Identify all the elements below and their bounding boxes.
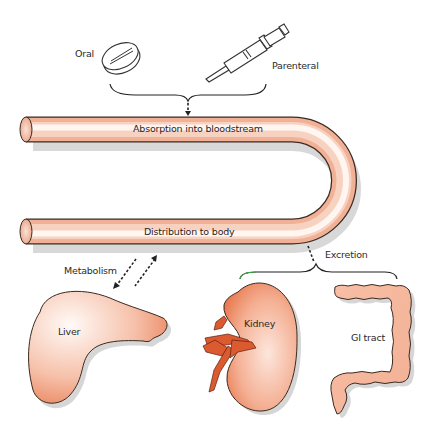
- absorption-label: Absorption into bloodstream: [133, 123, 263, 134]
- excretion-label: Excretion: [325, 249, 368, 260]
- arrow-down-icon: [185, 111, 191, 116]
- routes-brace: [110, 84, 266, 101]
- liver-label: Liver: [58, 326, 80, 337]
- syringe-icon: [206, 24, 289, 82]
- kidney-illustration: [203, 283, 301, 415]
- gi-tract-illustration: [331, 285, 415, 419]
- excretion-brace: [240, 264, 397, 279]
- parenteral-label: Parenteral: [272, 60, 319, 71]
- metabolism-arrows: [117, 259, 155, 286]
- oral-label: Oral: [75, 48, 94, 59]
- liver-illustration: [29, 291, 171, 408]
- bloodstream-tube: [20, 117, 346, 244]
- pill-icon: [98, 37, 145, 79]
- pharmacokinetics-diagram: [0, 0, 437, 428]
- kidney-label: Kidney: [244, 318, 275, 329]
- gi-tract-label: GI tract: [351, 332, 385, 343]
- metabolism-label: Metabolism: [64, 265, 117, 276]
- distribution-label: Distribution to body: [144, 226, 235, 237]
